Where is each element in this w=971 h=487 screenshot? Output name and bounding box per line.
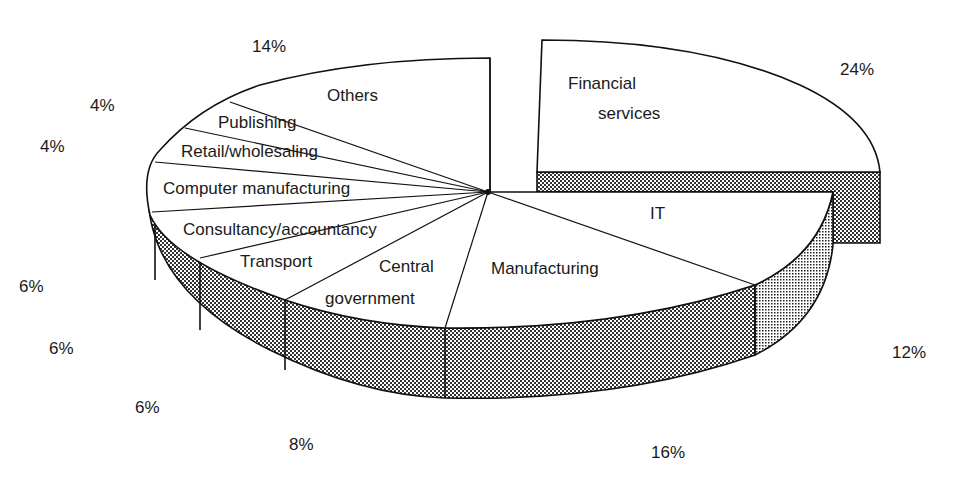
label-central-2: government <box>325 289 415 308</box>
pct-transport: 6% <box>135 398 160 417</box>
label-others: Others <box>327 86 378 105</box>
financial-top <box>537 40 880 172</box>
pct-financial: 24% <box>840 60 874 79</box>
label-retail: Retail/wholesaling <box>181 142 318 161</box>
pct-computer: 6% <box>19 277 44 296</box>
pct-central: 8% <box>289 435 314 454</box>
pie-chart: Financial services IT Manufacturing Cent… <box>0 0 971 487</box>
label-manufacturing: Manufacturing <box>491 259 599 278</box>
label-financial-2: services <box>598 104 660 123</box>
pct-retail: 4% <box>40 137 65 156</box>
pct-publishing: 4% <box>90 96 115 115</box>
pct-it: 12% <box>892 343 926 362</box>
pct-manufacturing: 16% <box>651 443 685 462</box>
pct-consultancy: 6% <box>49 339 74 358</box>
label-transport: Transport <box>240 252 312 271</box>
label-consultancy: Consultancy/accountancy <box>183 220 377 239</box>
label-central-1: Central <box>379 257 434 276</box>
label-computer: Computer manufacturing <box>163 179 350 198</box>
label-publishing: Publishing <box>218 113 296 132</box>
label-financial-1: Financial <box>568 74 636 93</box>
pct-others: 14% <box>252 37 286 56</box>
label-it: IT <box>650 204 665 223</box>
